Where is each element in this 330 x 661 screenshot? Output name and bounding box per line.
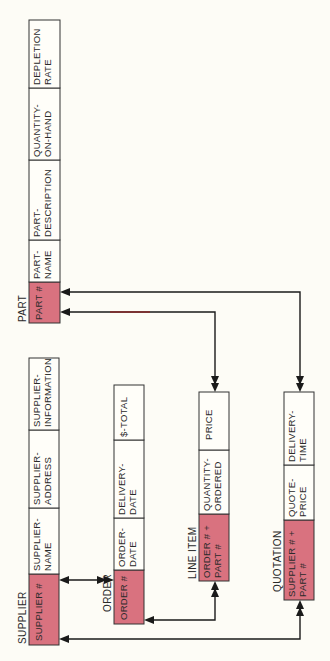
cell-text: ORDER # + bbox=[201, 525, 212, 578]
cell-text: PRICE bbox=[297, 486, 308, 517]
cell-text: SUPPLIER- bbox=[31, 452, 42, 505]
arrowhead-icon bbox=[60, 308, 70, 316]
cell-text: ORDER # bbox=[118, 575, 129, 620]
cell-text: DELIVERY- bbox=[116, 463, 127, 515]
cell-text: PART # bbox=[33, 286, 44, 320]
arrowhead-icon bbox=[60, 288, 70, 296]
cell-text: $-TOTAL bbox=[118, 397, 129, 437]
table-part: PART PART # PART- NAME PART- DESCRIPTION… bbox=[17, 20, 60, 323]
arrowhead-icon bbox=[59, 635, 69, 643]
cell-text: SUPPLIER # bbox=[33, 583, 44, 641]
cell-text: ADDRESS bbox=[42, 457, 53, 505]
cell-text: DESCRIPTION bbox=[42, 169, 53, 237]
relationship-supplier-quotation bbox=[59, 600, 304, 643]
cell-text: QUANTITY- bbox=[31, 104, 42, 157]
er-diagram: PART PART # PART- NAME PART- DESCRIPTION… bbox=[0, 0, 330, 661]
relationship-order-line-item bbox=[144, 581, 219, 624]
cell-text: NAME bbox=[42, 542, 53, 571]
cell-text: QUOTE- bbox=[286, 478, 297, 517]
cell-text: PRICE bbox=[203, 409, 214, 440]
table-supplier: SUPPLIER SUPPLIER # SUPPLIER- NAME SUPPL… bbox=[17, 358, 59, 645]
cell-text: INFORMATION bbox=[42, 358, 53, 427]
relationship-part-line-item bbox=[60, 308, 219, 392]
cell-text: PART- bbox=[31, 250, 42, 279]
relationship-supplier-order bbox=[59, 576, 114, 584]
cell-text: SUPPLIER- bbox=[31, 518, 42, 571]
cell-text: ON-HAND bbox=[42, 111, 53, 157]
cell-text: RATE bbox=[42, 59, 53, 85]
arrowhead-icon bbox=[59, 576, 69, 584]
table-quotation: QUOTATION SUPPLIER # + PART # QUOTE- PRI… bbox=[272, 392, 314, 600]
cell-text: ORDER- bbox=[116, 528, 127, 567]
cell-text: NAME bbox=[42, 250, 53, 279]
cell-text: PART # bbox=[297, 563, 308, 597]
table-title-quotation: QUOTATION bbox=[272, 530, 283, 592]
cell-text: SUPPLIER- bbox=[31, 374, 42, 427]
relationship-part-quotation bbox=[60, 288, 304, 392]
table-title-supplier: SUPPLIER bbox=[17, 591, 28, 644]
table-title-part: PART bbox=[17, 295, 28, 322]
cell-text: DELIVERY- bbox=[286, 410, 297, 462]
cell-text: TIME bbox=[297, 438, 308, 462]
table-title-line-item: LINE ITEM bbox=[187, 527, 198, 580]
cell-text: DATE bbox=[127, 489, 138, 515]
cell-text: QUANTITY- bbox=[201, 458, 212, 511]
table-order: ORDER ORDER # ORDER- DATE DELIVERY- DATE… bbox=[102, 385, 144, 624]
table-line-item: LINE ITEM ORDER # + PART # QUANTITY- ORD… bbox=[187, 392, 229, 581]
cell-text: ORDERED bbox=[212, 461, 223, 511]
cell-text: PART # bbox=[212, 544, 223, 578]
arrowhead-icon bbox=[144, 616, 154, 624]
cell-text: SUPPLIER # + bbox=[286, 530, 297, 597]
cell-text: DATE bbox=[127, 541, 138, 567]
cell-text: DEPLETION bbox=[31, 28, 42, 85]
cell-text: PART- bbox=[31, 208, 42, 237]
